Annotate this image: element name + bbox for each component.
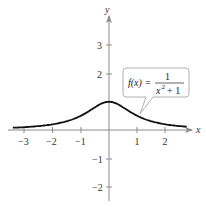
x-tick-label: 1 bbox=[135, 136, 140, 147]
y-tick-label: 3 bbox=[97, 40, 102, 51]
y-tick-label: −2 bbox=[92, 182, 103, 193]
function-callout: f(x) = 1 x 2 + 1 bbox=[123, 68, 189, 114]
callout-denominator-base: x bbox=[155, 85, 161, 96]
y-tick-label: 2 bbox=[97, 69, 102, 80]
callout-numerator: 1 bbox=[165, 71, 170, 82]
x-tick-label: −3 bbox=[18, 136, 29, 147]
callout-denominator-rest: + 1 bbox=[167, 85, 180, 96]
y-tick-label: −1 bbox=[92, 154, 103, 165]
x-tick-label: 2 bbox=[163, 136, 168, 147]
x-axis-label: x bbox=[195, 124, 201, 135]
y-axis-label: y bbox=[104, 4, 110, 15]
function-curve bbox=[13, 102, 187, 128]
function-graph: x y −3 −2 −1 1 2 3 2 −1 −2 f(x) = 1 x 2 … bbox=[0, 0, 206, 207]
x-tick-label: −2 bbox=[46, 136, 57, 147]
callout-lhs: f(x) = bbox=[128, 77, 151, 89]
x-tick-label: −1 bbox=[75, 136, 86, 147]
callout-denominator-exp: 2 bbox=[162, 83, 166, 91]
